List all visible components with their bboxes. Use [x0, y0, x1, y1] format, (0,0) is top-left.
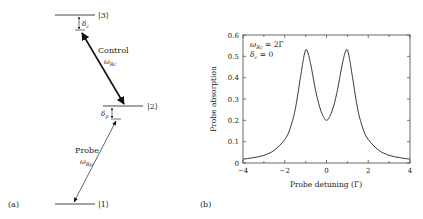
x-tick-label: −2: [280, 167, 290, 175]
y-tick-label: 0.3: [228, 96, 239, 104]
absorption-chart: 00.10.20.30.40.50.6 −4−2024 ωRc = 2Γ δc …: [200, 32, 413, 210]
level-1-label: |1⟩: [98, 200, 109, 209]
control-arrow: [82, 33, 124, 104]
y-tick-label: 0.1: [228, 138, 239, 146]
panel-a-label: (a): [8, 200, 19, 209]
delta-c-label: δc: [82, 20, 89, 29]
level-2-label: |2⟩: [147, 102, 158, 111]
energy-level-diagram: |3⟩ δc Control ωRc |2⟩ δp Probe ωRp |1⟩ …: [8, 11, 158, 209]
level-3-label: |3⟩: [98, 11, 109, 20]
annotation-detuning: δc = 0: [250, 50, 273, 60]
y-axis-ticks: 00.10.20.30.40.50.6: [228, 32, 410, 168]
panel-b-label: (b): [200, 200, 211, 209]
probe-rabi-label: ωRp: [80, 158, 93, 168]
delta-p-label: δp: [101, 110, 109, 120]
control-label: Control: [98, 46, 129, 55]
x-tick-label: 2: [366, 167, 370, 175]
x-tick-label: 4: [408, 167, 413, 175]
y-tick-label: 0.2: [228, 117, 239, 125]
y-tick-label: 0.5: [228, 53, 239, 61]
probe-label: Probe: [75, 146, 99, 155]
absorption-curve: [243, 49, 410, 159]
x-tick-label: 0: [324, 167, 328, 175]
control-rabi-label: ωRc: [104, 58, 116, 67]
y-tick-label: 0.6: [228, 32, 240, 40]
x-tick-label: −4: [238, 167, 249, 175]
figure: |3⟩ δc Control ωRc |2⟩ δp Probe ωRp |1⟩ …: [0, 0, 423, 219]
annotation-rabi: ωRc = 2Γ: [250, 40, 284, 50]
x-axis-label: Probe detuning (Γ): [290, 180, 362, 189]
y-axis-label: Probe absorption: [209, 66, 218, 132]
y-tick-label: 0.4: [228, 74, 240, 82]
